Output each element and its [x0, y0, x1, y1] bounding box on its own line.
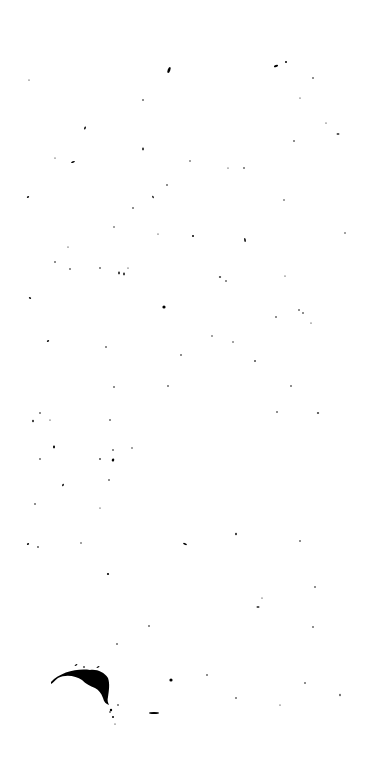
speck — [162, 305, 165, 308]
speck — [99, 267, 101, 269]
speck — [39, 458, 41, 460]
speck — [80, 542, 81, 543]
speck — [256, 606, 259, 608]
speck — [180, 354, 182, 356]
speck — [227, 167, 228, 168]
speck — [299, 540, 301, 542]
speck — [310, 322, 311, 323]
speck — [113, 386, 115, 388]
speck — [275, 316, 277, 318]
speck — [99, 507, 100, 508]
speck — [157, 233, 158, 234]
speck — [279, 704, 280, 705]
speck — [293, 140, 295, 142]
speck — [344, 232, 345, 233]
speck — [112, 716, 114, 718]
speck — [34, 503, 36, 505]
speck — [235, 697, 237, 699]
speck — [69, 268, 71, 270]
speckled-image-canvas — [0, 0, 378, 773]
speck — [225, 280, 227, 282]
speck — [298, 309, 300, 311]
speck — [290, 385, 292, 387]
speck — [39, 412, 41, 414]
speck — [113, 226, 114, 227]
speck — [149, 712, 159, 714]
speck — [304, 682, 306, 684]
speck — [109, 419, 111, 421]
speck — [337, 133, 340, 135]
speck — [109, 711, 111, 713]
speck — [312, 626, 314, 628]
speck — [142, 99, 144, 101]
speck — [285, 61, 287, 63]
speck — [117, 704, 119, 706]
speck — [167, 385, 169, 387]
speck — [261, 597, 262, 598]
speck — [127, 267, 128, 268]
speck — [67, 246, 68, 247]
speck — [325, 122, 326, 123]
speck — [49, 419, 50, 420]
speck — [166, 184, 168, 186]
speck — [206, 674, 208, 676]
speck — [243, 167, 245, 169]
speck — [302, 312, 304, 314]
speck — [211, 335, 212, 336]
speck — [53, 446, 55, 449]
speck — [339, 694, 340, 696]
speck — [142, 148, 144, 151]
speck — [108, 479, 110, 481]
speck — [235, 533, 237, 535]
speck — [110, 709, 112, 711]
speck — [107, 573, 109, 575]
speck — [254, 360, 256, 362]
speck — [283, 199, 284, 200]
speck — [312, 77, 314, 79]
speck — [232, 341, 233, 342]
speck — [114, 723, 115, 724]
speck — [112, 449, 114, 451]
speck — [83, 666, 85, 668]
speck — [54, 157, 55, 158]
speck — [132, 207, 134, 209]
speck — [37, 546, 39, 548]
speck — [28, 79, 29, 80]
speck — [169, 678, 172, 681]
speck — [148, 625, 150, 627]
speckle-artwork — [0, 0, 378, 773]
speck — [116, 643, 118, 645]
speck — [219, 276, 221, 278]
speck — [123, 273, 125, 276]
speck — [317, 412, 319, 414]
speck — [99, 458, 101, 460]
speck — [192, 235, 194, 237]
speck — [276, 411, 278, 413]
background — [0, 0, 378, 773]
speck — [32, 420, 34, 422]
speck — [131, 447, 132, 448]
speck — [54, 261, 56, 263]
speck — [105, 346, 107, 348]
speck — [118, 272, 120, 275]
speck — [284, 275, 285, 276]
speck — [314, 586, 316, 588]
speck — [299, 97, 300, 98]
speck — [189, 160, 190, 161]
